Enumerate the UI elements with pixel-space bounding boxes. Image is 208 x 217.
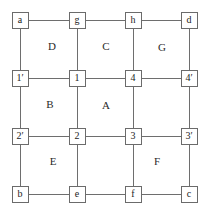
- grid-graph-diagram: aghd1′144′2′233′befcDCGBAEF: [0, 0, 208, 217]
- graph-node-2[interactable]: 2: [69, 128, 86, 145]
- graph-node-1[interactable]: 1: [69, 70, 86, 87]
- graph-node-g[interactable]: g: [69, 12, 86, 29]
- graph-node-b[interactable]: b: [12, 186, 29, 203]
- graph-node-label: h: [131, 15, 136, 25]
- graph-node-label: 1′: [16, 73, 23, 83]
- graph-node-label: 2: [75, 131, 80, 141]
- graph-node-c[interactable]: c: [181, 186, 198, 203]
- graph-node-label: a: [18, 15, 22, 25]
- region-c-label: C: [102, 40, 109, 52]
- graph-node-e[interactable]: e: [69, 186, 86, 203]
- graph-node-3p[interactable]: 3′: [181, 128, 198, 145]
- graph-node-f[interactable]: f: [125, 186, 142, 203]
- graph-node-label: c: [187, 189, 191, 199]
- region-d-label: D: [48, 40, 56, 52]
- graph-node-label: d: [187, 15, 192, 25]
- graph-node-label: 1: [75, 73, 80, 83]
- graph-node-3[interactable]: 3: [125, 128, 142, 145]
- graph-node-label: g: [75, 15, 80, 25]
- graph-node-label: f: [131, 189, 134, 199]
- graph-node-a[interactable]: a: [12, 12, 29, 29]
- region-b-label: B: [46, 98, 53, 110]
- graph-node-4[interactable]: 4: [125, 70, 142, 87]
- graph-node-1p[interactable]: 1′: [12, 70, 29, 87]
- region-g-label: G: [158, 41, 166, 53]
- graph-node-label: b: [18, 189, 23, 199]
- region-a-label: A: [102, 99, 110, 111]
- graph-node-label: 3: [131, 131, 136, 141]
- graph-node-d[interactable]: d: [181, 12, 198, 29]
- graph-node-label: 2′: [16, 131, 23, 141]
- graph-node-h[interactable]: h: [125, 12, 142, 29]
- graph-node-label: 4: [131, 73, 136, 83]
- graph-node-4p[interactable]: 4′: [181, 70, 198, 87]
- graph-node-label: 3′: [185, 131, 192, 141]
- graph-node-2p[interactable]: 2′: [12, 128, 29, 145]
- region-e-label: E: [50, 155, 57, 167]
- region-f-label: F: [154, 155, 160, 167]
- graph-node-label: 4′: [185, 73, 192, 83]
- graph-node-label: e: [75, 189, 79, 199]
